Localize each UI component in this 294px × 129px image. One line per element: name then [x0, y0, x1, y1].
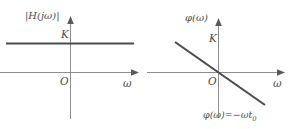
phase-equation-subscript: 0 [252, 115, 256, 123]
magnitude-y-axis-label: |H(jω)| [25, 11, 60, 21]
phase-x-axis-label: ω [273, 78, 282, 89]
panel-magnitude-response: |H(jω)| K O ω [0, 0, 147, 129]
figure-ideal-transmission-system: |H(jω)| K O ω φ(ω) K O ω φ(ω)=−ωt0 [0, 0, 294, 129]
phase-y-axis-arrowhead [215, 18, 222, 26]
panel-phase-response: φ(ω) K O ω φ(ω)=−ωt0 [147, 0, 294, 129]
magnitude-origin-label: O [60, 76, 69, 87]
magnitude-x-axis-label: ω [123, 78, 132, 89]
magnitude-level-label-K: K [61, 29, 69, 40]
phase-y-axis-label: φ(ω) [185, 13, 208, 23]
magnitude-y-axis-arrowhead [67, 16, 74, 24]
phase-equation-main: φ(ω)=−ωt [203, 109, 252, 120]
phase-origin-label: O [208, 76, 217, 87]
phase-x-axis-arrowhead [277, 69, 285, 76]
phase-negative-slope-line [175, 42, 265, 105]
magnitude-x-axis-arrowhead [131, 69, 139, 76]
magnitude-plot-svg [0, 0, 147, 129]
phase-level-label-K: K [209, 33, 217, 44]
phase-equation-annotation: φ(ω)=−ωt0 [203, 110, 257, 123]
